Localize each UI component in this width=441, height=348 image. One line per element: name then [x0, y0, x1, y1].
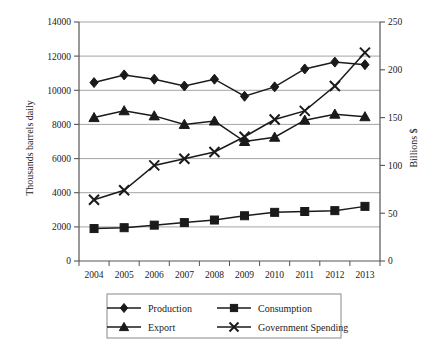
data-point-square: [361, 202, 369, 210]
chart-legend: ProductionConsumptionExportGovernment Sp…: [107, 294, 348, 338]
x-axis-tick-label: 2009: [235, 270, 254, 280]
x-axis-tick-label: 2007: [175, 270, 194, 280]
data-point-square: [150, 221, 158, 229]
y2-axis-title: Billions $: [408, 128, 419, 167]
legend-label: Production: [148, 303, 192, 314]
data-point-square: [301, 207, 309, 215]
x-axis-tick-label: 2008: [205, 270, 224, 280]
x-axis-tick-label: 2011: [295, 270, 314, 280]
data-point-square: [271, 208, 279, 216]
y-axis-tick-label: 8000: [52, 120, 71, 130]
y2-axis-tick-label: 100: [388, 161, 403, 171]
x-axis-tick-label: 2013: [355, 270, 374, 280]
y-axis-tick-label: 14000: [47, 17, 71, 27]
x-axis-tick-label: 2006: [145, 270, 164, 280]
chart-container: 02000400060008000100001200014000 0501001…: [0, 0, 441, 348]
x-axis-tick-label: 2010: [265, 270, 284, 280]
data-point-square: [90, 225, 98, 233]
data-point-square: [210, 216, 218, 224]
data-point-square: [120, 224, 128, 232]
x-axis-tick-label: 2012: [325, 270, 344, 280]
y-axis-tick-label: 10000: [47, 86, 71, 96]
y-axis-tick-label: 2000: [52, 222, 71, 232]
line-chart: 02000400060008000100001200014000 0501001…: [0, 0, 441, 348]
y-axis-tick-label: 12000: [47, 52, 71, 62]
y2-axis-tick-label: 250: [388, 17, 403, 27]
data-point-square: [241, 212, 249, 220]
y2-axis-tick-label: 200: [388, 65, 403, 75]
y-axis-tick-label: 6000: [52, 154, 71, 164]
y-axis-tick-label: 0: [66, 256, 71, 266]
x-axis-tick-label: 2004: [85, 270, 104, 280]
legend-item-government-spending[interactable]: Government Spending: [217, 322, 348, 333]
data-point-square: [230, 304, 237, 311]
legend-label: Export: [148, 322, 175, 333]
x-axis-tick-label: 2005: [115, 270, 134, 280]
data-point-square: [331, 207, 339, 215]
y2-axis-tick-label: 150: [388, 113, 403, 123]
legend-label: Government Spending: [258, 322, 348, 333]
data-point-square: [180, 219, 188, 227]
y-axis-title: Thousands barrels daily: [24, 100, 35, 196]
legend-item-consumption[interactable]: Consumption: [217, 303, 312, 314]
y-axis-tick-label: 4000: [52, 188, 71, 198]
legend-label: Consumption: [258, 303, 312, 314]
y2-axis-tick-label: 0: [388, 256, 393, 266]
y2-axis-tick-label: 50: [388, 209, 398, 219]
